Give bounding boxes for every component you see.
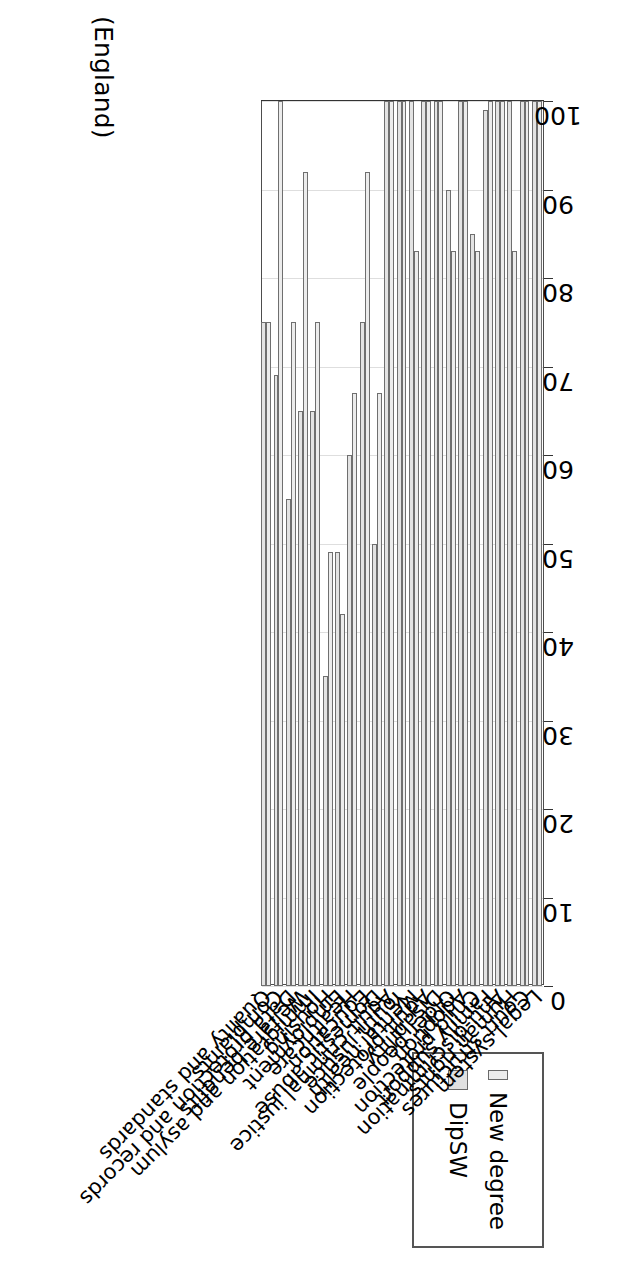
bar-new-degree <box>475 251 480 986</box>
value-axis: 1009080706050403020100 <box>261 100 544 101</box>
bar-dipsw <box>397 101 402 986</box>
bar-new-degree <box>303 172 308 986</box>
bar-new-degree <box>266 322 271 986</box>
bar-new-degree <box>402 101 407 986</box>
bar-dipsw <box>274 375 279 986</box>
bar-new-degree <box>278 101 283 986</box>
bar-dipsw <box>532 101 537 986</box>
bar-new-degree <box>438 101 443 986</box>
bar-dipsw <box>470 234 475 986</box>
bar-group <box>322 101 334 984</box>
figure-caption: (England) <box>89 16 118 139</box>
bar-group <box>334 101 346 984</box>
bar-group <box>445 101 457 984</box>
axis-tick-label: 30 <box>542 721 574 750</box>
bar-group <box>346 101 358 984</box>
bar-new-degree <box>537 101 542 986</box>
bar-group <box>309 101 321 984</box>
axis-tick-label: 50 <box>542 544 574 573</box>
bar-dipsw <box>310 411 315 986</box>
bar-group <box>408 101 420 984</box>
bar-group <box>297 101 309 984</box>
bar-dipsw <box>483 110 488 986</box>
plot-area <box>261 100 544 985</box>
category-axis: Legal systemCourt structuresHuman rights… <box>261 991 544 1271</box>
axis-tick-label: 10 <box>542 898 574 927</box>
bar-group <box>420 101 432 984</box>
bar-dipsw <box>286 499 291 986</box>
bar-new-degree <box>315 322 320 986</box>
bar-group <box>457 101 469 984</box>
bar-new-degree <box>365 172 370 986</box>
bar-group <box>272 101 284 984</box>
bar-dipsw <box>323 676 328 986</box>
bar-new-degree <box>426 101 431 986</box>
bar-new-degree <box>488 101 493 986</box>
bar-group <box>395 101 407 984</box>
bar-new-degree <box>451 251 456 986</box>
bar-dipsw <box>372 544 377 987</box>
bar-dipsw <box>335 552 340 986</box>
bar-dipsw <box>298 411 303 986</box>
bar-new-degree <box>328 552 333 986</box>
chart-stage: (England) New degree DipSW 1009080706050… <box>0 0 618 1280</box>
axis-tick-label: 90 <box>542 190 574 219</box>
figure: (England) New degree DipSW 1009080706050… <box>0 0 618 1280</box>
bar-dipsw <box>421 101 426 986</box>
bar-dipsw <box>434 101 439 986</box>
axis-tick-label: 100 <box>534 101 582 130</box>
bar-new-degree <box>389 101 394 986</box>
bar-dipsw <box>384 101 389 986</box>
bar-group <box>518 101 530 984</box>
axis-tick-label: 80 <box>542 278 574 307</box>
bar-dipsw <box>520 101 525 986</box>
bar-group <box>469 101 481 984</box>
bar-group <box>260 101 272 984</box>
bar-dipsw <box>495 101 500 986</box>
bar-dipsw <box>458 101 463 986</box>
bar-new-degree <box>414 251 419 986</box>
bar-group <box>371 101 383 984</box>
bar-new-degree <box>500 101 505 986</box>
bar-new-degree <box>525 101 530 986</box>
axis-tick-label: 70 <box>542 367 574 396</box>
bar-dipsw <box>347 455 352 986</box>
bar-group <box>358 101 370 984</box>
bar-new-degree <box>463 101 468 986</box>
bar-new-degree <box>291 322 296 986</box>
axis-tick-label: 60 <box>542 455 574 484</box>
bar-dipsw <box>507 101 512 986</box>
bar-group <box>506 101 518 984</box>
axis-tick-label: 40 <box>542 632 574 661</box>
axis-tick-label: 0 <box>550 986 566 1015</box>
bar-dipsw <box>409 101 414 986</box>
bar-group <box>482 101 494 984</box>
bar-new-degree <box>512 251 517 986</box>
bar-group <box>285 101 297 984</box>
bar-new-degree <box>377 393 382 986</box>
bar-group <box>531 101 543 984</box>
bars-container <box>262 101 543 984</box>
bar-dipsw <box>446 190 451 987</box>
bar-dipsw <box>261 322 266 986</box>
bar-dipsw <box>360 322 365 986</box>
bar-new-degree <box>352 393 357 986</box>
bar-group <box>494 101 506 984</box>
bar-group <box>383 101 395 984</box>
axis-tick-label: 20 <box>542 809 574 838</box>
bar-group <box>432 101 444 984</box>
bar-new-degree <box>340 614 345 986</box>
